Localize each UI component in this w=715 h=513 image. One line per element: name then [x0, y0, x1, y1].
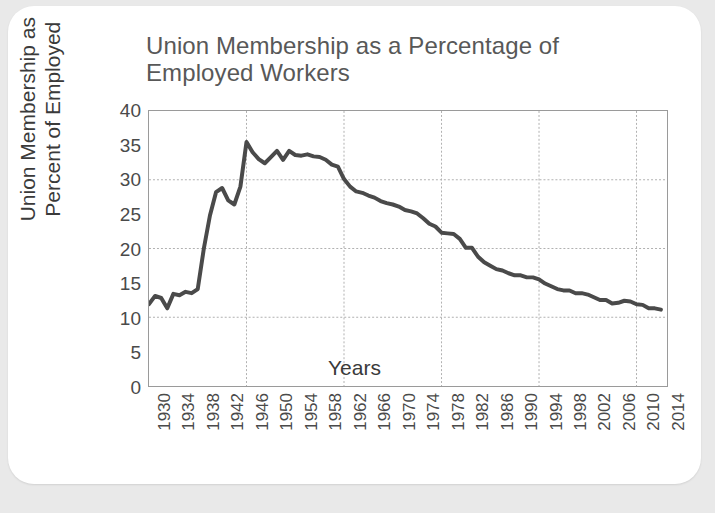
x-tick-label: 1946 — [253, 393, 273, 431]
x-axis-title: Years — [8, 356, 701, 380]
x-tick-label: 1934 — [179, 393, 199, 431]
x-tick-label: 1938 — [204, 393, 224, 431]
x-tick-label: 1974 — [424, 393, 444, 431]
x-tick-label: 1966 — [375, 393, 395, 431]
chart-title: Union Membership as a Percentage of Empl… — [146, 32, 566, 87]
x-tick-label: 1958 — [326, 393, 346, 431]
x-tick-label: 2002 — [595, 393, 615, 431]
x-tick-label: 1998 — [571, 393, 591, 431]
x-tick-label: 1990 — [522, 393, 542, 431]
y-tick-label: 25 — [120, 203, 141, 225]
y-tick-label: 40 — [120, 100, 141, 122]
chart-line-svg — [149, 111, 667, 386]
union-membership-line — [149, 142, 661, 310]
y-tick-label: 35 — [120, 134, 141, 156]
gridlines — [149, 111, 667, 386]
x-tick-label: 1986 — [498, 393, 518, 431]
y-axis-title-line2: Percent of Employed — [41, 22, 64, 217]
x-tick-label: 1962 — [351, 393, 371, 431]
x-tick-label: 2006 — [620, 393, 640, 431]
x-tick-label: 1970 — [400, 393, 420, 431]
x-tick-label: 1978 — [449, 393, 469, 431]
x-tick-label: 2014 — [669, 393, 689, 431]
plot-area: 0510152025303540 19301934193819421946195… — [148, 110, 668, 387]
x-tick-label: 1950 — [277, 393, 297, 431]
x-tick-label: 1942 — [228, 393, 248, 431]
y-tick-label: 30 — [120, 169, 141, 191]
y-axis-title: Union Membership as Percent of Employed — [15, 0, 65, 269]
chart-card: Union Membership as a Percentage of Empl… — [8, 6, 701, 484]
y-tick-label: 15 — [120, 273, 141, 295]
x-tick-label: 2010 — [644, 393, 664, 431]
x-tick-label: 1982 — [473, 393, 493, 431]
x-tick-label: 1930 — [155, 393, 175, 431]
y-tick-label: 20 — [120, 238, 141, 260]
y-axis-title-line1: Union Membership as — [16, 17, 39, 221]
x-tick-label: 1954 — [302, 393, 322, 431]
x-tick-label: 1994 — [547, 393, 567, 431]
y-tick-label: 10 — [120, 307, 141, 329]
